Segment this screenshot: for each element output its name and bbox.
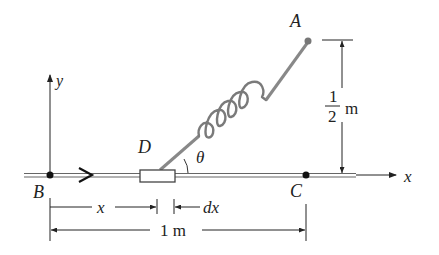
- point-A-dot: [305, 38, 312, 45]
- point-B-dot: [47, 172, 54, 179]
- point-B-label: B: [33, 182, 44, 202]
- spring: [160, 42, 308, 170]
- height-unit: m: [345, 99, 358, 118]
- y-axis-label: y: [54, 72, 64, 90]
- x-axis-label: x: [403, 167, 412, 186]
- angle-arc: [184, 159, 188, 173]
- height-denominator: 2: [328, 107, 337, 126]
- x-dimension-label: x: [96, 198, 105, 217]
- angle-theta-label: θ: [196, 148, 204, 167]
- direction-arrow-icon: [79, 168, 92, 182]
- x-dimension: x dx: [50, 198, 220, 241]
- length-label: 1 m: [160, 221, 186, 240]
- height-dimension: 1 2 m: [322, 40, 358, 173]
- dx-dimension-label: dx: [203, 198, 220, 217]
- point-C-dot: [303, 172, 310, 179]
- point-C-label: C: [290, 181, 303, 201]
- slider-D: [140, 170, 175, 182]
- spring-slider-diagram: x y B C A D θ 1 2 m x dx: [0, 0, 439, 255]
- height-numerator: 1: [329, 87, 338, 106]
- point-A-label: A: [289, 11, 302, 31]
- length-dimension: 1 m: [51, 204, 306, 241]
- point-D-label: D: [137, 137, 151, 157]
